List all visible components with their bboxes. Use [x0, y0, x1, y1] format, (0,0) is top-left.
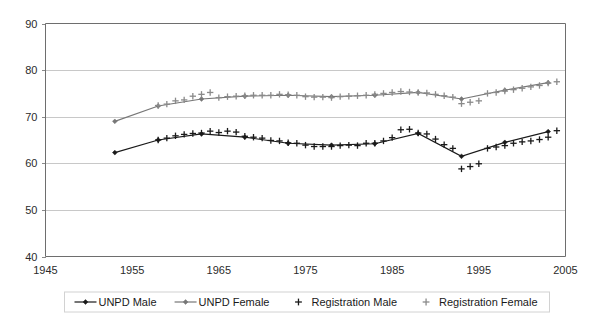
data-point: [372, 91, 378, 97]
x-tick-label-1965: 1965: [207, 264, 231, 276]
data-point: [476, 98, 482, 104]
data-point: [510, 86, 516, 92]
data-point: [484, 145, 490, 151]
data-point: [224, 93, 230, 99]
legend-item-label: Registration Female: [439, 296, 537, 308]
y-axis-tick-labels: 908070605040: [25, 18, 37, 263]
y-tick-label-90: 90: [25, 18, 37, 30]
data-point: [294, 140, 300, 146]
data-point: [164, 101, 170, 107]
data-point: [276, 138, 282, 144]
data-point: [484, 90, 490, 96]
data-point: [380, 138, 386, 144]
legend-item-label: Registration Male: [311, 296, 397, 308]
data-point: [285, 92, 291, 98]
data-point: [467, 99, 473, 105]
data-point: [224, 128, 230, 134]
data-point: [190, 93, 196, 99]
x-tick-label-1955: 1955: [120, 264, 144, 276]
line-chart-plot: 908070605040 194519551965197519851995200…: [0, 0, 614, 322]
legend-item-label: UNPD Male: [98, 296, 156, 308]
data-point: [285, 140, 291, 146]
data-point: [415, 89, 421, 95]
y-tick-label-60: 60: [25, 157, 37, 169]
chart-legend: UNPD MaleUNPD FemaleRegistration MaleReg…: [64, 292, 549, 312]
x-tick-label-2005: 2005: [553, 264, 577, 276]
data-point: [337, 93, 343, 99]
data-point: [432, 91, 438, 97]
data-point: [536, 136, 542, 142]
data-point: [424, 131, 430, 137]
series-registration-male: [155, 126, 560, 172]
data-point: [528, 84, 534, 90]
legend-item-registration-female[interactable]: Registration Female: [423, 296, 538, 308]
data-point: [302, 142, 308, 148]
data-point: [354, 93, 360, 99]
data-point: [372, 140, 378, 146]
data-point: [276, 91, 282, 97]
x-tick-label-1985: 1985: [380, 264, 404, 276]
data-point: [346, 142, 352, 148]
axis-frame: [46, 24, 566, 257]
data-point: [320, 94, 326, 100]
data-point: [311, 94, 317, 100]
data-point: [216, 94, 222, 100]
data-point: [441, 141, 447, 147]
data-point: [458, 100, 464, 106]
data-point: [328, 94, 334, 100]
data-point: [459, 154, 464, 159]
data-point: [398, 127, 404, 133]
data-point: [155, 137, 161, 143]
data-point: [198, 91, 204, 97]
data-point: [302, 93, 308, 99]
data-point: [545, 134, 551, 140]
data-point: [406, 126, 412, 132]
data-point: [198, 130, 204, 136]
data-point: [268, 137, 274, 143]
data-point: [337, 142, 343, 148]
y-tick-label-80: 80: [25, 64, 37, 76]
data-point: [363, 140, 369, 146]
data-point: [164, 135, 170, 141]
data-point: [450, 94, 456, 100]
data-series-group: [112, 79, 560, 173]
data-point: [155, 102, 161, 108]
x-tick-label-1975: 1975: [293, 264, 317, 276]
data-point: [545, 80, 551, 86]
data-point: [467, 163, 473, 169]
data-point: [207, 89, 213, 95]
data-point: [328, 143, 334, 149]
x-axis-tick-labels: 1945195519651975198519952005: [33, 264, 577, 276]
chart-container: 908070605040 194519551965197519851995200…: [0, 0, 614, 322]
data-point: [207, 128, 213, 134]
x-tick-label-1945: 1945: [33, 264, 57, 276]
data-point: [528, 138, 534, 144]
data-point: [112, 150, 117, 155]
data-point: [363, 92, 369, 98]
y-tick-label-50: 50: [25, 204, 37, 216]
data-point: [233, 129, 239, 135]
data-point: [259, 92, 265, 98]
data-point: [380, 90, 386, 96]
data-point: [554, 79, 560, 85]
series-registration-female: [155, 79, 560, 109]
y-tick-label-70: 70: [25, 111, 37, 123]
data-point: [476, 161, 482, 167]
data-point: [502, 88, 508, 94]
data-point: [268, 92, 274, 98]
data-point: [346, 93, 352, 99]
data-point: [294, 92, 300, 98]
data-point: [554, 127, 560, 133]
data-point: [519, 85, 525, 91]
data-point: [406, 89, 412, 95]
data-point: [458, 166, 464, 172]
tickmarks-group: [42, 25, 46, 258]
data-point: [424, 90, 430, 96]
data-point: [546, 129, 551, 134]
data-point: [242, 93, 248, 99]
data-point: [250, 92, 256, 98]
data-point: [242, 133, 248, 139]
x-tick-label-1995: 1995: [467, 264, 491, 276]
legend-item-label: UNPD Female: [199, 296, 270, 308]
data-point: [519, 139, 525, 145]
